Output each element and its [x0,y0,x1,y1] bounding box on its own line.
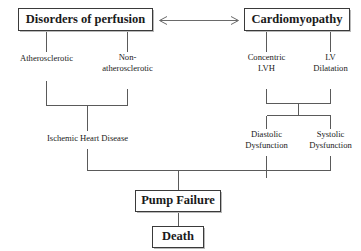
node-disorders-of-perfusion: Disorders of perfusion [19,9,155,33]
node-non-atherosclerotic-label-line1: Non- [119,52,137,62]
node-cardiomyopathy-label: Cardiomyopathy [252,12,344,26]
node-pump-failure: Pump Failure [136,191,223,214]
node-pump-failure-label: Pump Failure [141,193,215,207]
node-atherosclerotic-label: Atherosclerotic [20,53,73,63]
node-diastolic-dysfunction-label-line1: Diastolic [251,129,282,139]
double-headed-arrow-icon [160,17,239,25]
flowchart-diagram: Disorders of perfusion Cardiomyopathy Pu… [0,0,361,251]
node-cardiomyopathy: Cardiomyopathy [245,9,352,33]
node-concentric-lvh-label-line1: Concentric [248,52,286,62]
node-lv-dilatation-label-line2: Dilatation [313,63,348,73]
node-disorders-of-perfusion-label: Disorders of perfusion [26,12,145,26]
node-death: Death [153,227,206,250]
node-concentric-lvh-label-line2: LVH [258,63,275,73]
node-ischemic-heart-disease-label: Ischemic Heart Disease [47,133,128,143]
node-non-atherosclerotic-label-line2: atherosclerotic [102,63,153,73]
node-systolic-dysfunction-label-line2: Dysfunction [309,140,352,150]
flowchart-canvas: Disorders of perfusion Cardiomyopathy Pu… [0,0,361,251]
node-death-label: Death [162,229,194,243]
node-lv-dilatation-label-line1: LV [325,52,336,62]
node-diastolic-dysfunction-label-line2: Dysfunction [245,140,288,150]
node-systolic-dysfunction-label-line1: Systolic [317,129,345,139]
